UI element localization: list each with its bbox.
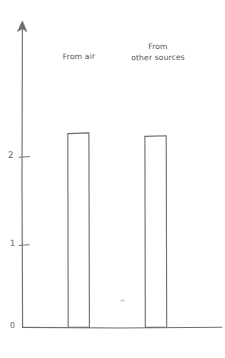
bar-from-air: [68, 133, 90, 327]
y-tick-label-2: 2: [8, 151, 14, 160]
y-tick-label-0: 0: [10, 322, 15, 330]
x-axis-line: [23, 327, 222, 328]
chart-figure: 2 1 0 From air From other sources: [0, 0, 225, 358]
bar-from-other-sources: [145, 136, 167, 328]
y-tick-1: [19, 245, 29, 246]
bar-label-from-other-sources: From other sources: [122, 41, 194, 64]
y-tick-2: [19, 157, 30, 158]
y-tick-label-1: 1: [10, 239, 16, 248]
bar-label-from-air: From air: [46, 51, 112, 63]
pencil-smudge: [120, 299, 124, 302]
y-axis-line: [22, 27, 23, 328]
